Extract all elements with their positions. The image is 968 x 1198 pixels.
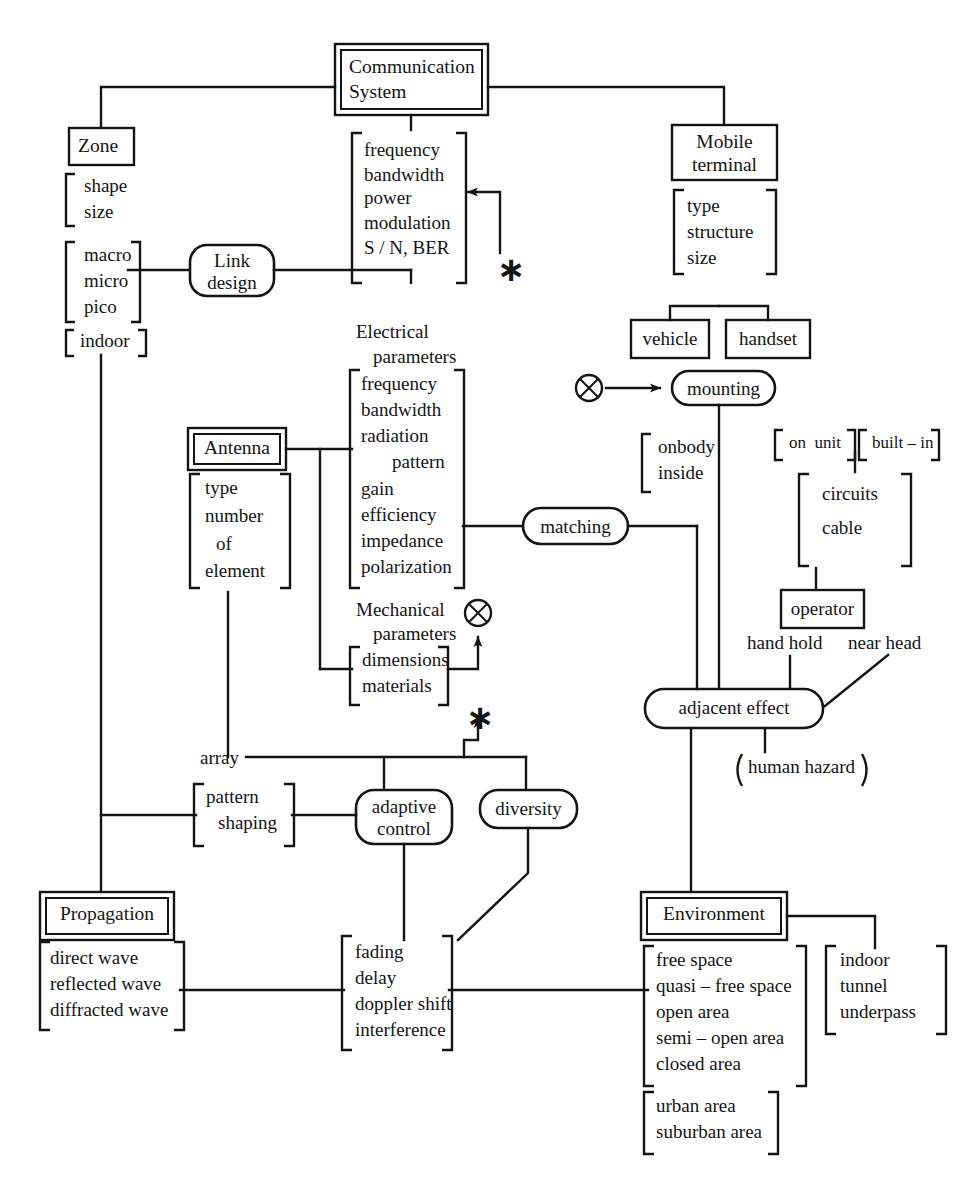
star-marker-2: ∗	[466, 700, 495, 734]
zone-scale-item-2: pico	[84, 297, 117, 316]
electrical-params-item-2: radiation	[361, 426, 429, 445]
electrical-parameters-label-line1: Electrical	[356, 322, 429, 341]
link-design-label-line2: design	[190, 273, 274, 292]
environment-space-item-1: quasi – free space	[656, 976, 792, 995]
link-design-label-line1: Link	[190, 251, 274, 270]
propagation-waves-item-2: diffracted wave	[50, 1000, 168, 1019]
mechanical-parameters-label-line1: Mechanical	[356, 600, 445, 619]
terminal-attrs-item-1: structure	[687, 222, 753, 241]
environment-space-item-4: closed area	[656, 1054, 741, 1073]
mounting-body-item-1: inside	[658, 463, 703, 482]
pattern-shaping-item-1: shaping	[218, 813, 277, 832]
mobile-terminal-label-line2: terminal	[672, 155, 777, 175]
channel-effects-item-1: delay	[355, 968, 396, 987]
system-params-item-4: S / N, BER	[364, 238, 450, 257]
propagation-label: Propagation	[46, 904, 168, 924]
system-params-item-3: modulation	[364, 213, 451, 232]
pattern-shaping-item-0: pattern	[206, 787, 259, 806]
root-label-line1: Communication	[349, 57, 475, 77]
edge-nearhead-adjacent	[825, 655, 888, 706]
electrical-params-item-7: polarization	[361, 557, 452, 576]
hand-hold-label: hand hold	[747, 633, 822, 652]
built-in-detail-item-1: cable	[822, 518, 862, 537]
star-marker-1: ∗	[497, 252, 526, 286]
system-params-item-2: power	[364, 188, 411, 207]
environment-space-item-2: open area	[656, 1002, 729, 1021]
environment-enclosed-item-2: underpass	[840, 1002, 916, 1021]
electrical-params-item-1: bandwidth	[361, 400, 441, 419]
diversity-label: diversity	[480, 799, 577, 818]
edge-vehicle-handset-join	[670, 306, 768, 320]
diagram-canvas: Communication System Zone shape size mac…	[0, 0, 968, 1198]
environment-space-item-3: semi – open area	[656, 1028, 784, 1047]
system-params-item-1: bandwidth	[364, 165, 444, 184]
vehicle-label: vehicle	[631, 329, 709, 348]
electrical-params-item-6: impedance	[361, 531, 443, 550]
array-label: array	[200, 748, 239, 767]
electrical-params-item-5: efficiency	[361, 505, 437, 524]
channel-effects-item-3: interference	[355, 1020, 446, 1039]
human-hazard-label: human hazard	[748, 757, 855, 776]
built-in-detail-item-0: circuits	[822, 484, 878, 503]
mounting-built-in-item-0: built – in	[872, 434, 933, 451]
electrical-parameters-label-line2: parameters	[373, 347, 456, 366]
mechanical-params-item-0: dimensions	[362, 650, 449, 669]
handset-label: handset	[726, 329, 810, 348]
zone-label: Zone	[78, 136, 118, 156]
zone-shape-item-0: shape	[84, 176, 127, 195]
adaptive-control-label-line2: control	[356, 819, 452, 838]
environment-enclosed-item-0: indoor	[840, 950, 890, 969]
zone-indoor-item-0: indoor	[80, 331, 130, 350]
electrical-params-item-0: frequency	[361, 374, 437, 393]
channel-effects-item-0: fading	[355, 942, 404, 961]
root-label-line2: System	[349, 82, 406, 102]
environment-enclosed-item-1: tunnel	[840, 976, 888, 995]
arrow-to-system-params	[468, 192, 500, 253]
mechanical-parameters-label-line2: parameters	[373, 624, 456, 643]
zone-shape-item-1: size	[84, 202, 114, 221]
antenna-label: Antenna	[194, 438, 280, 458]
zone-scale-item-1: micro	[84, 271, 128, 290]
environment-urban-item-1: suburban area	[656, 1122, 762, 1141]
edge-root-zone	[101, 87, 335, 128]
antenna-element-item-0: type	[205, 478, 238, 497]
propagation-waves-item-1: reflected wave	[50, 974, 161, 993]
antenna-element-item-2: of	[216, 534, 232, 553]
channel-effects-item-2: doppler shift	[355, 994, 452, 1013]
mechanical-params-item-1: materials	[362, 676, 432, 695]
near-head-label: near head	[848, 633, 921, 652]
edge-diversity-fading	[458, 828, 528, 940]
terminal-attrs-item-0: type	[687, 196, 720, 215]
edge-environment-enclosed	[787, 916, 875, 948]
terminal-attrs-item-2: size	[687, 248, 717, 267]
mounting-body-item-0: onbody	[658, 437, 715, 456]
environment-space-item-0: free space	[656, 950, 732, 969]
mounting-on-unit-item-0: on unit	[789, 434, 841, 451]
adaptive-control-label-line1: adaptive	[356, 797, 452, 816]
system-params-item-0: frequency	[364, 140, 440, 159]
antenna-element-item-3: element	[205, 561, 265, 580]
electrical-params-item-3: pattern	[392, 452, 445, 471]
adjacent-effect-label: adjacent effect	[645, 698, 823, 717]
propagation-waves-item-0: direct wave	[50, 948, 138, 967]
edge-root-mobile	[488, 87, 724, 125]
matching-label: matching	[523, 517, 628, 536]
mobile-terminal-label-line1: Mobile	[672, 132, 777, 152]
zone-scale-item-0: macro	[84, 245, 131, 264]
operator-label: operator	[781, 599, 864, 618]
electrical-params-item-4: gain	[361, 479, 394, 498]
mounting-label: mounting	[672, 379, 775, 398]
environment-urban-item-0: urban area	[656, 1096, 736, 1115]
environment-label: Environment	[647, 904, 781, 924]
antenna-element-item-1: number	[205, 506, 263, 525]
